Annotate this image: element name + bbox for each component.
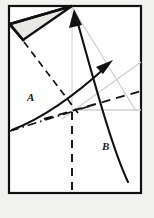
fold-diagram-svg: A B [0,0,154,218]
label-a: A [26,91,34,103]
label-b: B [101,140,109,152]
fold-diagram-canvas: A B [0,0,154,218]
